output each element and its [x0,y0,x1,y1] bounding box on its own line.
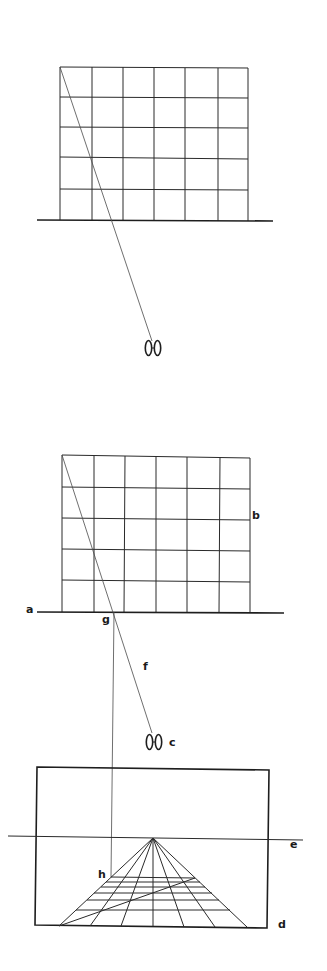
bottom-ground-line [37,612,284,613]
top-sight-line [60,67,152,341]
label-c: c [169,737,176,748]
top-figure [37,67,273,356]
top-ground-line [37,220,273,221]
perspective-floor-grid [59,838,247,927]
feet-icon [145,341,160,356]
label-b: b [252,510,260,521]
top-grid [60,67,248,221]
label-g: g [102,614,110,625]
label-e: e [290,839,297,850]
label-h: h [98,869,106,880]
bottom-figure [8,455,303,928]
bottom-grid [62,455,250,613]
label-f: f [143,661,148,672]
horizon-line [8,836,303,840]
perspective-diagram [0,0,327,971]
picture-frame [35,767,269,928]
label-a: a [26,604,33,615]
label-d: d [278,919,286,930]
bottom-sight-line [62,455,152,733]
feet-icon [146,735,161,750]
